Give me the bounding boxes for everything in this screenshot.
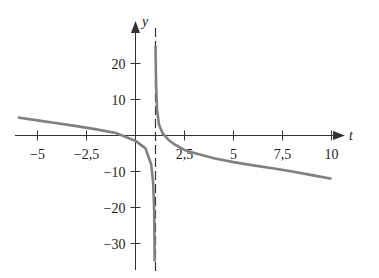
x-tick-label: −2,5 — [74, 147, 99, 162]
y-axis-label: y — [140, 14, 149, 29]
y-ticks: 2010−10−20−30 — [104, 57, 141, 252]
y-tick-label: −10 — [104, 165, 126, 180]
y-tick-label: 10 — [112, 93, 126, 108]
function-plot: t y −5−2,52,557,510 2010−10−20−30 — [0, 0, 379, 278]
x-tick-label: 5 — [230, 147, 237, 162]
y-axis-arrow-icon — [131, 21, 140, 33]
x-tick-label: −5 — [30, 147, 45, 162]
x-axis-arrow-icon — [333, 131, 345, 140]
y-tick-label: −30 — [104, 237, 126, 252]
y-tick-label: −20 — [104, 201, 126, 216]
x-axis-label: t — [349, 128, 354, 143]
x-tick-label: 10 — [325, 147, 339, 162]
axes: t y — [15, 14, 354, 270]
x-tick-label: 7,5 — [274, 147, 292, 162]
y-tick-label: 20 — [112, 57, 126, 72]
